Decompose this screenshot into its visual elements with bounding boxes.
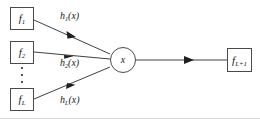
input-node-f1[interactable]: f1 — [10, 7, 34, 30]
edge-label-h2: h2(x) — [60, 58, 79, 68]
input-node-f1-label: f1 — [19, 13, 25, 24]
edge-x-to-output — [136, 56, 227, 64]
ellipsis-dot — [21, 81, 23, 83]
input-node-f2-label: f2 — [19, 47, 25, 58]
vertical-ellipsis-icon — [20, 67, 24, 83]
ellipsis-dot — [21, 74, 23, 76]
combiner-node-x-label: x — [121, 55, 125, 65]
ellipsis-dot — [21, 67, 23, 69]
input-node-fL-label: fL — [19, 94, 26, 105]
combiner-node-x[interactable]: x — [110, 47, 136, 73]
input-node-fL[interactable]: fL — [10, 88, 34, 111]
edge-f1-to-x — [34, 20, 110, 54]
edge-label-hL: hL(x) — [60, 95, 80, 105]
output-node-fL1[interactable]: fL+1 — [227, 48, 252, 72]
edge-label-h1: h1(x) — [60, 11, 79, 21]
input-node-f2[interactable]: f2 — [10, 41, 34, 64]
diagram-canvas: f1 f2 fL h1(x) h2(x) hL(x) x fL+1 — [0, 0, 260, 119]
output-node-fL1-label: fL+1 — [232, 55, 247, 66]
